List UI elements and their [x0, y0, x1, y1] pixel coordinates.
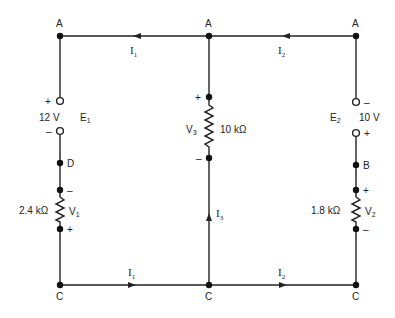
node-dot [206, 282, 212, 288]
circuit-diagram: A A A C C C D B I1 I2 I3 I1 I2 + – 12 V … [0, 0, 395, 318]
current-label: I2 [278, 44, 286, 59]
terminal-e2-minus [353, 99, 360, 106]
current-label: I2 [278, 266, 286, 281]
node-label: D [67, 158, 74, 169]
resistor-value: 1.8 kΩ [311, 205, 341, 216]
node-label: A [352, 18, 359, 29]
node-label: C [205, 291, 212, 302]
node-dot [206, 33, 212, 39]
arrow-up-icon [206, 213, 212, 221]
resistor-v1 [56, 190, 64, 229]
node-dot [353, 33, 359, 39]
node-dot [57, 187, 63, 193]
resistor-voltage: V1 [69, 206, 80, 218]
node-dot [353, 226, 359, 232]
node-dot [206, 155, 212, 161]
current-label: I1 [128, 266, 136, 281]
polarity-minus: – [196, 153, 202, 164]
node-label: A [56, 18, 63, 29]
polarity-plus: + [363, 185, 369, 196]
terminal-e1-minus [57, 128, 64, 135]
node-dot [353, 282, 359, 288]
resistor-voltage: V2 [365, 206, 376, 218]
source-value: 12 V [39, 112, 60, 123]
resistor-v2 [352, 190, 360, 229]
current-label: I1 [130, 44, 138, 59]
source-value: 10 V [359, 112, 380, 123]
source-name: E1 [80, 112, 91, 124]
resistor-v3 [205, 97, 213, 158]
terminal-e2-plus [353, 130, 360, 137]
polarity-plus: + [364, 128, 370, 139]
node-label: B [363, 160, 370, 171]
arrow-left-icon [282, 33, 290, 39]
node-label: C [352, 291, 359, 302]
resistor-value: 10 kΩ [220, 124, 247, 135]
node-dot [57, 160, 63, 166]
terminal-e1-plus [57, 98, 64, 105]
node-dot [57, 282, 63, 288]
source-terminals [57, 98, 360, 137]
arrow-right-icon [279, 282, 287, 288]
node-label: C [56, 291, 63, 302]
arrow-left-icon [133, 33, 141, 39]
node-dot [57, 226, 63, 232]
polarity-minus: – [67, 185, 73, 196]
polarity-minus: – [46, 126, 52, 137]
node-dots [57, 33, 359, 288]
current-label: I3 [216, 207, 224, 222]
polarity-plus: + [195, 92, 201, 103]
polarity-minus: – [364, 97, 370, 108]
resistor-value: 2.4 kΩ [19, 205, 49, 216]
polarity-plus: + [67, 224, 73, 235]
node-dot [353, 162, 359, 168]
polarity-minus: – [363, 224, 369, 235]
node-dot [353, 187, 359, 193]
resistor-voltage: V3 [186, 124, 197, 136]
source-name: E2 [330, 112, 341, 124]
node-dot [206, 94, 212, 100]
polarity-plus: + [45, 96, 51, 107]
node-label: A [205, 18, 212, 29]
arrow-right-icon [128, 282, 136, 288]
node-dot [57, 33, 63, 39]
